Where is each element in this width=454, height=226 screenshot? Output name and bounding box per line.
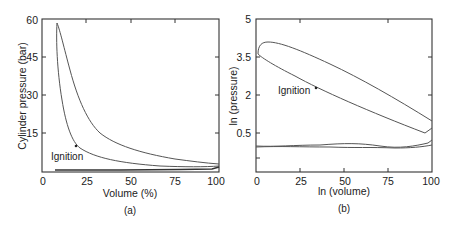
chart-b: 5 3.5 2 0.5 0 25 50 75 100 Ignition ln (… <box>227 13 440 214</box>
svg-text:100: 100 <box>207 175 225 187</box>
svg-text:45: 45 <box>26 51 38 63</box>
chart-a-y-ticks <box>42 57 219 133</box>
chart-a-expansion-curve <box>57 23 219 164</box>
chart-a-x-tick-labels: 0 25 50 75 100 <box>40 175 225 187</box>
svg-text:30: 30 <box>26 89 38 101</box>
svg-text:0: 0 <box>40 175 46 187</box>
svg-text:3.5: 3.5 <box>236 51 251 63</box>
chart-a-x-ticks <box>86 19 175 23</box>
chart-a-gas-exchange-curve <box>55 167 219 170</box>
chart-a-y-tick-labels: 60 45 30 15 <box>26 14 38 139</box>
chart-b-expansion-curve <box>258 42 432 121</box>
chart-a-ignition-marker <box>75 145 78 148</box>
svg-text:75: 75 <box>382 175 394 187</box>
figure: 60 45 30 15 0 25 50 75 100 Ignition Volu… <box>0 0 454 226</box>
chart-a-frame <box>42 19 219 172</box>
svg-text:50: 50 <box>125 175 137 187</box>
chart-b-panel-label: (b) <box>338 203 350 214</box>
chart-b-y-ticks <box>256 57 432 158</box>
svg-text:25: 25 <box>81 175 93 187</box>
svg-text:0.5: 0.5 <box>236 127 251 139</box>
chart-b-ignition-label: Ignition <box>278 85 310 96</box>
svg-text:2: 2 <box>245 89 251 101</box>
svg-text:15: 15 <box>26 127 38 139</box>
chart-a: 60 45 30 15 0 25 50 75 100 Ignition Volu… <box>16 14 225 216</box>
svg-text:5: 5 <box>245 13 251 25</box>
chart-b-x-axis-title: ln (volume) <box>318 185 370 197</box>
svg-text:75: 75 <box>169 175 181 187</box>
svg-text:25: 25 <box>295 175 307 187</box>
chart-b-y-axis-title: ln (pressure) <box>227 67 239 126</box>
chart-a-compression-curve <box>57 23 219 167</box>
svg-text:60: 60 <box>26 14 38 26</box>
svg-text:0: 0 <box>254 175 260 187</box>
chart-a-y-axis-title: Cylinder pressure (bar) <box>16 42 28 149</box>
chart-b-x-ticks <box>300 19 388 172</box>
chart-a-panel-label: (a) <box>124 205 136 216</box>
chart-b-ignition-marker <box>315 87 318 90</box>
svg-text:100: 100 <box>422 175 440 187</box>
chart-a-x-axis-title: Volume (%) <box>103 187 157 199</box>
chart-a-ignition-label: Ignition <box>51 151 83 162</box>
